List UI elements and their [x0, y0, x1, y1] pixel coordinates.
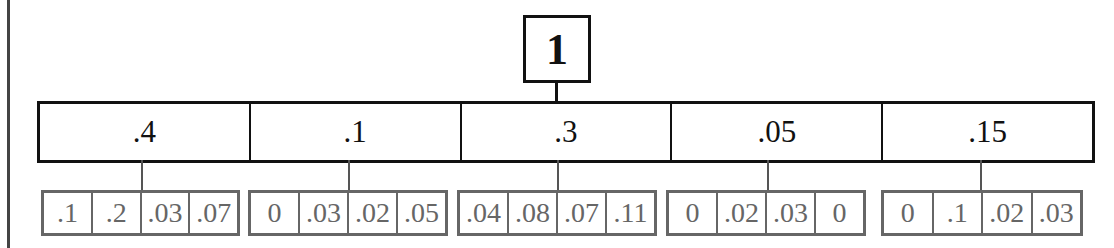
- level1-row: .4 .1 .3 .05 .15: [37, 101, 1095, 163]
- leaf-node: .04: [460, 193, 507, 233]
- leaf-node: .02: [981, 193, 1031, 233]
- level1-connector: [141, 160, 143, 192]
- leaf-node: .07: [188, 193, 237, 233]
- leaf-node: 0: [251, 193, 298, 233]
- left-border-line: [7, 0, 10, 248]
- leaf-node: .02: [716, 193, 765, 233]
- leaf-group: 0 .03 .02 .05: [248, 190, 448, 236]
- leaf-node: .1: [932, 193, 982, 233]
- root-connector: [555, 82, 558, 102]
- leaf-node: .03: [765, 193, 814, 233]
- leaf-group: .04 .08 .07 .11: [457, 190, 657, 236]
- root-node: 1: [523, 15, 591, 83]
- root-label: 1: [546, 24, 568, 75]
- leaf-node: .1: [44, 193, 91, 233]
- leaf-node: .03: [1031, 193, 1081, 233]
- leaf-node: .03: [140, 193, 189, 233]
- level1-connector: [980, 160, 982, 192]
- leaf-node: 0: [669, 193, 716, 233]
- level1-node: .4: [40, 104, 249, 160]
- level1-node: .05: [670, 104, 881, 160]
- level1-node: .3: [460, 104, 671, 160]
- level1-connector: [348, 160, 350, 192]
- leaf-node: .05: [396, 193, 445, 233]
- leaf-group: 0 .1 .02 .03: [881, 190, 1083, 236]
- leaf-node: .11: [605, 193, 654, 233]
- leaf-node: .02: [347, 193, 396, 233]
- level1-connector: [557, 160, 559, 192]
- leaf-node: 0: [884, 193, 932, 233]
- leaf-node: .03: [298, 193, 347, 233]
- leaf-group: 0 .02 .03 0: [666, 190, 866, 236]
- leaf-group: .1 .2 .03 .07: [41, 190, 240, 236]
- leaf-node: 0: [814, 193, 863, 233]
- leaf-node: .2: [91, 193, 140, 233]
- level1-connector: [767, 160, 769, 192]
- level1-node: .15: [881, 104, 1092, 160]
- level1-node: .1: [249, 104, 460, 160]
- leaf-node: .08: [507, 193, 556, 233]
- leaf-node: .07: [556, 193, 605, 233]
